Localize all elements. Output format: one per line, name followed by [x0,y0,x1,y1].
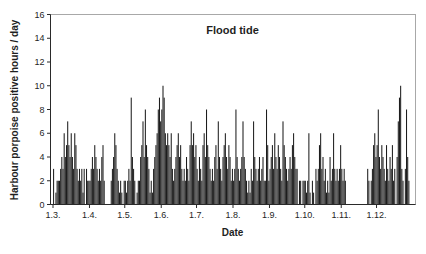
bar [230,157,231,205]
y-tick-label: 16 [34,10,44,20]
bar [130,181,131,205]
bar [375,157,376,205]
bar [210,169,211,205]
x-tick-label: 1.4. [82,210,97,220]
bar [282,121,283,204]
bar [393,181,394,205]
bar [328,193,329,205]
chart-figure: 02468101214161.3.1.4.1.5.1.6.1.7.1.8.1.9… [0,0,426,254]
bar [84,169,85,205]
y-tick-label: 8 [39,105,44,115]
bar [405,169,406,205]
bar [304,181,305,205]
bar [71,133,72,204]
bar [261,169,262,205]
bar [266,110,267,205]
bar [104,181,105,205]
bar [181,169,182,205]
y-tick-label: 12 [34,57,44,67]
bar [315,169,316,205]
bar [252,181,253,205]
bar [317,181,318,205]
bar [55,193,56,205]
bar [112,169,113,205]
bar [268,181,269,205]
bar [95,157,96,205]
bar [90,181,91,205]
bar [172,169,173,205]
bar [80,181,81,205]
bar [126,193,127,205]
bar [275,157,276,205]
bar [408,181,409,205]
bar [151,181,152,205]
bar [322,157,323,205]
bar [367,169,368,205]
bar [306,193,307,205]
bar [197,169,198,205]
bar [158,110,159,205]
bar [250,193,251,205]
bar [194,157,195,205]
bar [53,169,54,205]
bar [247,193,248,205]
bar [165,133,166,204]
bar [102,145,103,204]
bar [131,98,132,205]
bar [171,133,172,204]
bar [66,145,67,204]
bar [180,145,181,204]
bar [400,86,401,205]
bar [115,145,116,204]
bar [297,169,298,205]
bar [237,157,238,205]
bar [146,145,147,204]
bar [274,133,275,204]
bar [251,169,252,205]
bar [288,169,289,205]
bar [139,181,140,205]
bar [62,169,63,205]
bar [273,169,274,205]
bar [60,169,61,205]
plot-svg: 02468101214161.3.1.4.1.5.1.6.1.7.1.8.1.9… [0,0,426,254]
y-tick-label: 4 [39,152,44,162]
bar [310,193,311,205]
bar [148,169,149,205]
bar [101,157,102,205]
bar [111,181,112,205]
bar [255,169,256,205]
bar [238,169,239,205]
bar [82,193,83,205]
bar [166,145,167,204]
bar [270,169,271,205]
bar [117,169,118,205]
x-tick-label: 1.10. [295,210,315,220]
bar [211,181,212,205]
bar [88,181,89,205]
bar [134,181,135,205]
bar [335,181,336,205]
bar [206,110,207,205]
bar [325,169,326,205]
bar [64,133,65,204]
x-tick-label: 1.7. [189,210,204,220]
bar [320,133,321,204]
bar [121,193,122,205]
y-tick-label: 0 [39,200,44,210]
bar [344,169,345,205]
bar [235,110,236,205]
bar [318,169,319,205]
bar [142,121,143,204]
bar [79,169,80,205]
bar [398,121,399,204]
bar [97,169,98,205]
bar [391,169,392,205]
bar [94,145,95,204]
bar [333,133,334,204]
bar [381,145,382,204]
bar [138,181,139,205]
bar [244,157,245,205]
x-tick-label: 1.5. [117,210,132,220]
x-tick-label: 1.12. [367,210,387,220]
